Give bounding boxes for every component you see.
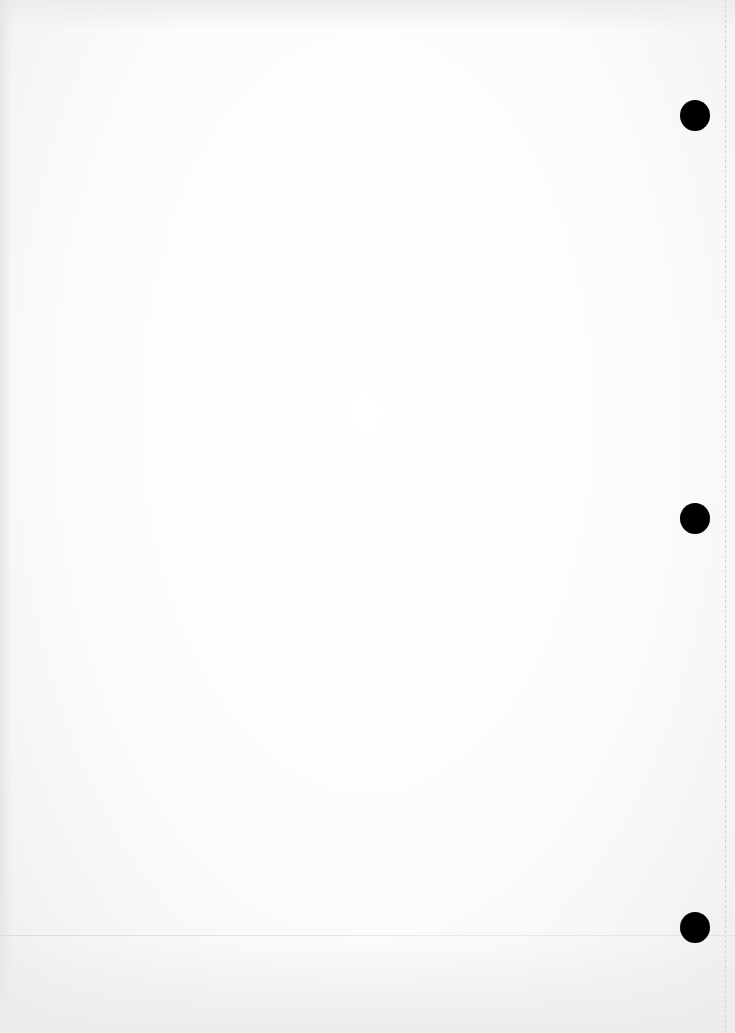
page-fold-line <box>0 935 735 936</box>
blank-page <box>0 0 735 1033</box>
punch-hole-top <box>680 100 710 131</box>
scan-shadow-bottom <box>0 943 735 1033</box>
punch-hole-middle <box>680 503 710 534</box>
scan-shadow-top <box>0 0 735 30</box>
punch-hole-bottom <box>680 912 710 943</box>
scan-shadow-left <box>0 0 12 1033</box>
page-edge-line <box>725 0 726 1033</box>
